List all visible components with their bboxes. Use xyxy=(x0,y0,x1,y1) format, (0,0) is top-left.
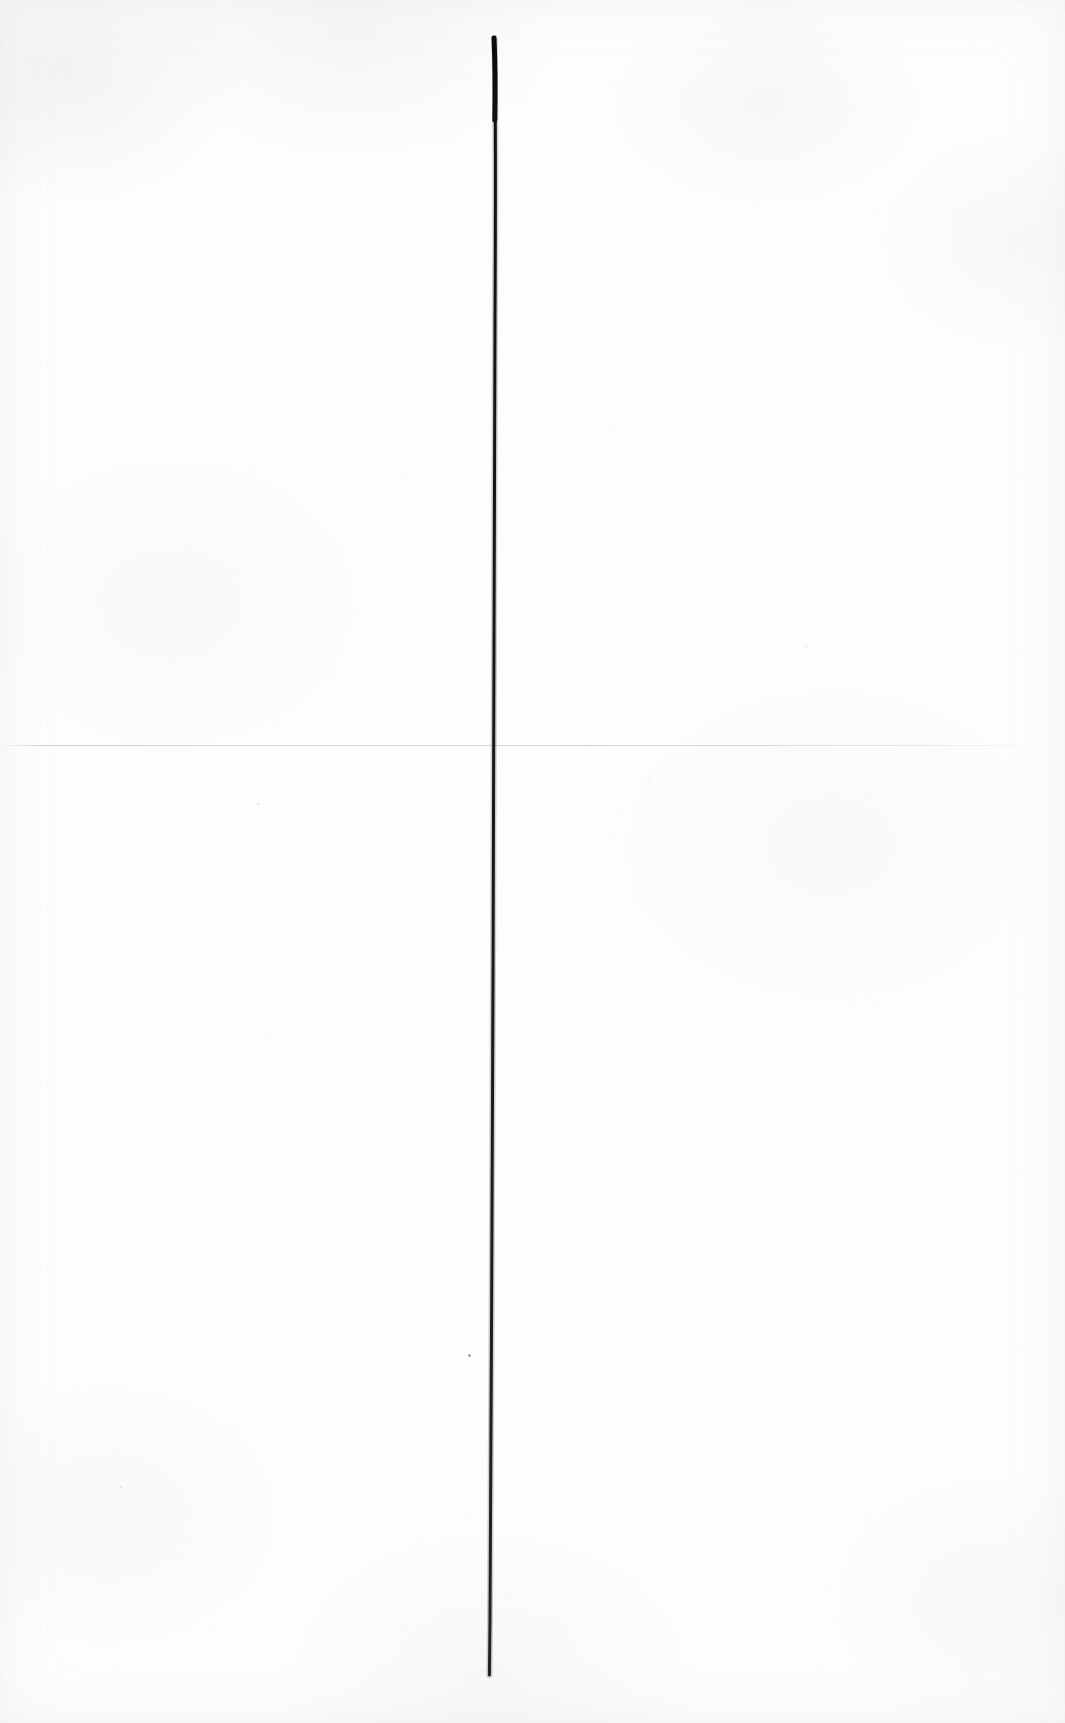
paper-vignette xyxy=(0,0,1065,1723)
scanned-page xyxy=(0,0,1065,1723)
